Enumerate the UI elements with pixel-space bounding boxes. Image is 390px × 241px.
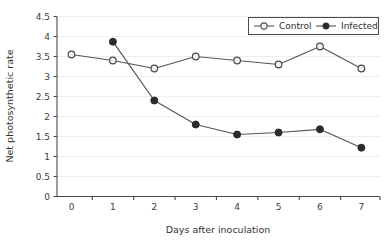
y-axis-title: Net photosynthetic rate bbox=[4, 49, 15, 162]
x-tick-label: 0 bbox=[69, 202, 75, 212]
x-tick-label: 6 bbox=[317, 202, 323, 212]
y-tick-label: 3.5 bbox=[36, 52, 50, 62]
data-point-marker bbox=[234, 131, 241, 138]
y-tick-label: 0 bbox=[44, 192, 50, 202]
net-photosynthetic-rate-line-chart: 00.511.522.533.544.5 01234567 Days after… bbox=[0, 0, 390, 241]
y-tick-label: 1.5 bbox=[36, 132, 50, 142]
y-tick-label: 4.5 bbox=[36, 12, 50, 22]
legend-label-control: Control bbox=[279, 21, 312, 31]
data-point-marker bbox=[68, 51, 75, 58]
open-circle-icon bbox=[261, 23, 267, 29]
data-point-marker bbox=[151, 97, 158, 104]
filled-circle-icon bbox=[323, 23, 329, 29]
chart-figure: 00.511.522.533.544.5 01234567 Days after… bbox=[0, 0, 390, 241]
data-point-marker bbox=[110, 57, 117, 64]
data-point-marker bbox=[317, 43, 324, 50]
data-point-marker bbox=[192, 121, 199, 128]
y-tick-label: 4 bbox=[44, 32, 50, 42]
x-tick-label: 1 bbox=[110, 202, 116, 212]
x-tick-label: 5 bbox=[276, 202, 282, 212]
y-tick-label: 3 bbox=[44, 72, 50, 82]
data-point-marker bbox=[358, 144, 365, 151]
data-point-marker bbox=[109, 38, 116, 45]
x-tick-label: 4 bbox=[234, 202, 240, 212]
data-point-marker bbox=[151, 65, 158, 72]
data-point-marker bbox=[275, 61, 282, 68]
y-tick-label: 2 bbox=[44, 112, 50, 122]
data-point-marker bbox=[192, 53, 199, 60]
y-tick-label: 0.5 bbox=[36, 172, 50, 182]
data-point-marker bbox=[234, 57, 241, 64]
y-tick-label: 2.5 bbox=[36, 92, 50, 102]
y-tick-label: 1 bbox=[44, 152, 50, 162]
x-tick-label: 7 bbox=[358, 202, 364, 212]
x-tick-label: 3 bbox=[193, 202, 199, 212]
chart-legend: Control Infected bbox=[249, 18, 379, 35]
x-tick-label: 2 bbox=[151, 202, 157, 212]
legend-label-infected: Infected bbox=[341, 21, 378, 31]
data-point-marker bbox=[316, 126, 323, 133]
data-point-marker bbox=[358, 65, 365, 72]
x-axis-title: Days after inoculation bbox=[166, 224, 271, 235]
data-point-marker bbox=[275, 129, 282, 136]
